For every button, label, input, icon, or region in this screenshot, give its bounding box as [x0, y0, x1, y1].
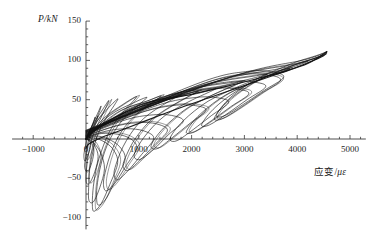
x-tick-label: 2000	[162, 144, 222, 154]
x-tick-label: 5000	[320, 144, 372, 154]
x-axis-title-text: 应变	[314, 167, 334, 177]
hysteresis-chart: P/kN 应变/με −1000010002000300040005000150…	[0, 0, 372, 242]
y-tick-label: 100	[50, 54, 81, 64]
y-tick-label: −50	[50, 172, 81, 182]
x-tick-label: 1000	[109, 144, 169, 154]
x-tick-label: −1000	[3, 144, 63, 154]
x-axis-title-unit: με	[337, 167, 346, 177]
x-tick-label: 0	[56, 144, 116, 154]
y-tick-label: 50	[50, 94, 81, 104]
data-curves-group	[84, 52, 327, 212]
x-tick-label: 3000	[214, 144, 274, 154]
chart-plot-area	[0, 0, 372, 242]
y-tick-label: 150	[50, 15, 81, 25]
x-tick-label: 4000	[267, 144, 327, 154]
x-axis-title: 应变/με	[314, 164, 346, 178]
y-tick-label: −100	[50, 212, 81, 222]
